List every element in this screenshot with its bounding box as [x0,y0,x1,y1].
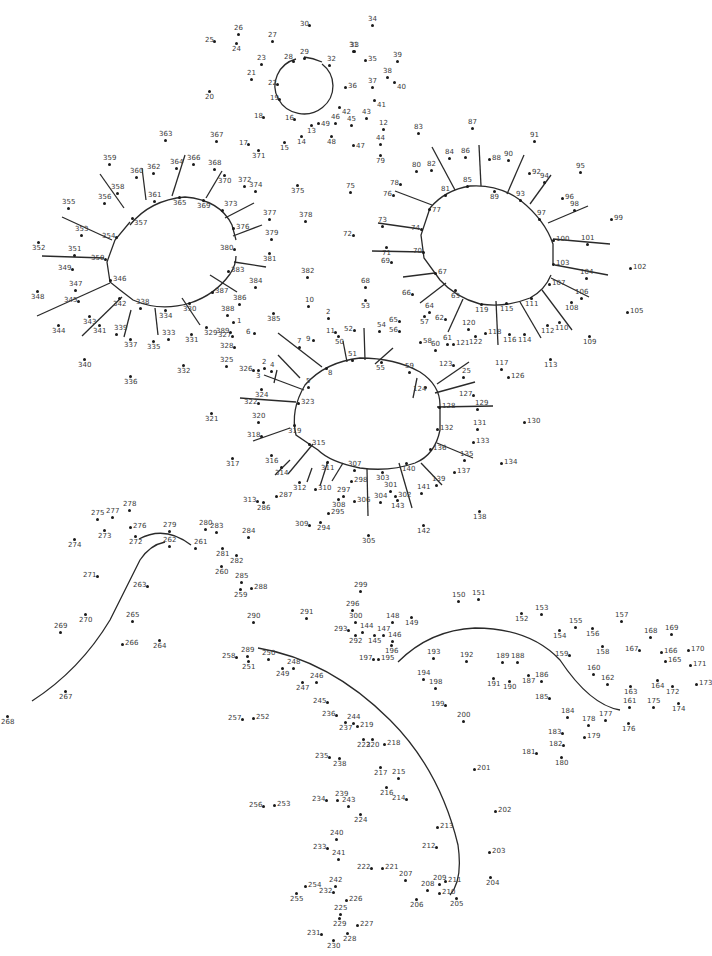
dot-number-label: 295 [331,509,344,516]
dot-number-label: 40 [397,84,406,91]
dot-number-label: 195 [381,655,394,662]
dot-number-label: 172 [666,689,679,696]
dot-number-label: 16 [285,115,294,122]
dot-number-label: 293 [334,626,347,633]
dot-number-label: 45 [347,116,356,123]
dot-number-label: 137 [457,468,470,475]
puzzle-dot [383,743,386,746]
puzzle-dot [353,50,356,53]
dot-number-label: 182 [549,741,562,748]
dot-number-label: 138 [473,514,486,521]
dot-number-label: 251 [242,664,255,671]
puzzle-dot [500,368,503,371]
dot-number-label: 44 [376,135,385,142]
dot-number-label: 319 [288,428,301,435]
dot-number-label: 286 [257,505,270,512]
dot-number-label: 170 [691,646,704,653]
puzzle-dot [585,277,588,280]
puzzle-dot [307,305,310,308]
dot-number-label: 338 [136,299,149,306]
puzzle-dot [306,276,309,279]
dot-number-label: 307 [348,461,361,468]
puzzle-dot [312,339,315,342]
dot-number-label: 86 [461,148,470,155]
puzzle-dot [378,330,381,333]
puzzle-dot [349,191,352,194]
dot-number-label: 103 [556,260,569,267]
dot-number-label: 135 [460,451,473,458]
dot-number-label: 212 [422,843,435,850]
dot-number-label: 382 [301,268,314,275]
puzzle-dot [438,406,441,409]
dot-number-label: 61 [443,335,452,342]
dot-number-label: 341 [93,328,106,335]
dot-number-label: 35 [368,56,377,63]
puzzle-dot [327,512,330,515]
dot-number-label: 247 [296,685,309,692]
puzzle-dot [488,851,491,854]
puzzle-dot [462,376,465,379]
dot-number-label: 89 [490,194,499,201]
dot-number-label: 4 [270,362,274,369]
dot-number-label: 205 [450,901,463,908]
dot-number-label: 201 [477,765,490,772]
dot-number-label: 60 [431,341,440,348]
dot-number-label: 294 [317,525,330,532]
dot-number-label: 371 [252,153,265,160]
dot-number-label: 174 [672,706,685,713]
puzzle-dot [103,202,106,205]
dot-number-label: 155 [569,618,582,625]
puzzle-dot [361,631,364,634]
puzzle-dot [347,805,350,808]
puzzle-dot [500,462,503,465]
puzzle-dot [352,234,355,237]
dot-number-label: 384 [249,278,262,285]
puzzle-dot [211,291,214,294]
dot-number-label: 377 [263,210,276,217]
dot-number-label: 322 [244,399,257,406]
dot-number-label: 198 [429,679,442,686]
dot-number-label: 147 [377,626,390,633]
dot-number-label: 202 [498,807,511,814]
puzzle-dot [628,706,631,709]
puzzle-dot [344,86,347,89]
dot-number-label: 144 [360,623,373,630]
dot-number-label: 273 [98,533,111,540]
dot-number-label: 161 [623,698,636,705]
dot-number-label: 315 [312,440,325,447]
puzzle-dot [73,254,76,257]
dot-number-label: 289 [241,647,254,654]
dot-number-label: 368 [208,160,221,167]
dot-number-label: 100 [556,236,569,243]
puzzle-dot [152,172,155,175]
dot-number-label: 15 [280,145,289,152]
dot-number-label: 242 [329,877,342,884]
dot-number-label: 119 [475,307,488,314]
dot-number-label: 302 [398,492,411,499]
dot-number-label: 184 [561,708,574,715]
dot-number-label: 49 [321,121,330,128]
puzzle-dot [275,495,278,498]
dot-number-label: 245 [313,698,326,705]
puzzle-dot [507,376,510,379]
dot-number-label: 109 [583,339,596,346]
dot-number-label: 222 [357,864,370,871]
puzzle-dot [462,720,465,723]
puzzle-dot [428,208,431,211]
dot-number-label: 113 [544,362,557,369]
dot-number-label: 259 [234,592,247,599]
dot-number-label: 73 [378,217,387,224]
dot-number-label: 76 [383,191,392,198]
dot-number-label: 264 [153,643,166,650]
dot-number-label: 367 [210,132,223,139]
puzzle-dot [353,329,356,332]
puzzle-dot [629,267,632,270]
dot-number-label: 246 [310,673,323,680]
dot-number-label: 131 [473,420,486,427]
dot-number-label: 375 [291,188,304,195]
puzzle-dot [225,365,228,368]
dot-number-label: 279 [163,522,176,529]
dot-number-label: 290 [247,613,260,620]
dot-number-label: 36 [348,83,357,90]
dot-number-label: 85 [463,177,472,184]
